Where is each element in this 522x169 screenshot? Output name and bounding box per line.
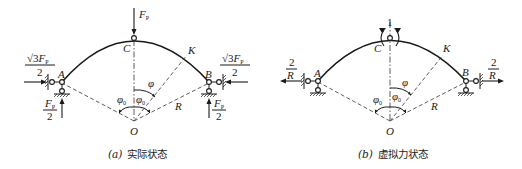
label-phi: φ — [402, 76, 408, 88]
label-unit-moment: 1 — [387, 16, 393, 28]
diagram-a-actual-state: C K A B O R φ φ0 φ0 FP √3FP 2 FP 2 √3FP … — [24, 8, 250, 160]
label-C: C — [123, 42, 131, 54]
diagram-b-virtual-force-state: 1 C K — [280, 16, 504, 160]
label-R: R — [174, 100, 182, 112]
label-force-A-horizontal: 2 R — [286, 56, 297, 81]
svg-text:2: 2 — [232, 66, 238, 78]
svg-text:R: R — [488, 69, 496, 81]
svg-text:2: 2 — [37, 66, 43, 78]
angle-arc-phi0-left — [119, 107, 134, 113]
svg-text:2: 2 — [289, 56, 295, 68]
label-B: B — [462, 66, 469, 78]
label-K: K — [442, 42, 451, 54]
label-phi0-left: φ0 — [373, 93, 382, 106]
label-A: A — [57, 68, 65, 80]
label-phi0-right: φ0 — [392, 90, 401, 103]
label-force-top: FP — [138, 8, 150, 21]
angle-arc-phi0-right — [390, 107, 406, 113]
caption-a: (a)实际状态 — [108, 148, 168, 160]
arch-curve — [62, 41, 209, 82]
label-R: R — [430, 100, 438, 112]
label-B: B — [205, 68, 212, 80]
svg-text:√3FP: √3FP — [222, 52, 244, 65]
label-phi0-right: φ0 — [136, 93, 145, 106]
label-phi0-left: φ0 — [117, 93, 126, 106]
angle-arc-phi0-right — [134, 107, 150, 113]
svg-text:2: 2 — [47, 110, 53, 122]
svg-text:2: 2 — [216, 110, 222, 122]
label-A: A — [313, 67, 321, 79]
svg-text:√3FP: √3FP — [27, 52, 49, 65]
label-force-B-vertical: FP 2 — [212, 97, 226, 122]
angle-arc-phi0-left — [375, 107, 390, 113]
hinge-C — [132, 36, 137, 41]
caption-b: (b)虚拟力状态 — [358, 148, 429, 160]
label-C: C — [374, 42, 382, 54]
arch-diagrams: C K A B O R φ φ0 φ0 FP √3FP 2 FP 2 √3FP … — [0, 0, 522, 169]
label-force-A-vertical: FP 2 — [43, 97, 57, 122]
label-K: K — [187, 44, 196, 56]
svg-text:R: R — [286, 69, 294, 81]
label-force-A-horizontal: √3FP 2 — [25, 52, 55, 78]
svg-text:FP: FP — [44, 97, 56, 110]
label-O: O — [130, 125, 138, 137]
radius-OB — [134, 83, 209, 121]
hinge-C — [388, 36, 393, 41]
label-phi: φ — [148, 77, 154, 89]
label-O: O — [386, 125, 394, 137]
label-force-B-horizontal: √3FP 2 — [220, 52, 250, 78]
svg-text:FP: FP — [213, 97, 225, 110]
svg-text:2: 2 — [491, 56, 497, 68]
label-force-B-horizontal: 2 R — [488, 56, 499, 81]
